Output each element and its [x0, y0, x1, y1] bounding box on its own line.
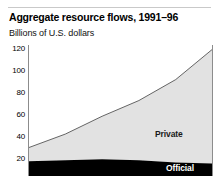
private-area-path [29, 49, 213, 163]
chart-figure: Aggregate resource flows, 1991–96 Billio… [0, 0, 219, 177]
title-top-rule [8, 7, 211, 8]
chart-series-group [29, 49, 213, 176]
series-label-official: Official [166, 163, 194, 173]
y-tick-label-120: 120 [1, 45, 25, 53]
chart-title: Aggregate resource flows, 1991–96 [9, 11, 178, 24]
y-tick-label-80: 80 [1, 89, 25, 97]
y-tick-label-100: 100 [1, 67, 25, 75]
plot-area: Private Official [28, 45, 213, 176]
series-label-private: Private [155, 129, 183, 139]
area-chart-svg [28, 45, 213, 176]
y-tick-label-40: 40 [1, 133, 25, 141]
y-tick-label-60: 60 [1, 111, 25, 119]
chart-subtitle: Billions of U.S. dollars [9, 27, 94, 39]
y-tick-label-20: 20 [1, 155, 25, 163]
y-axis-labels: 120 100 80 60 40 20 [0, 45, 25, 176]
